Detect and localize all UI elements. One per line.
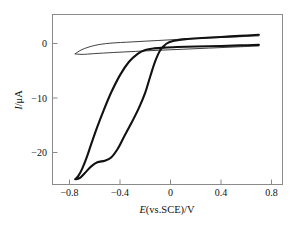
x-tick-label-3: 0.4	[215, 187, 228, 198]
y-axis-title-rest: /μA	[13, 90, 24, 107]
y-axis-title: I/μA	[13, 90, 24, 111]
y-axis-tick-labels: 0 −10 −20	[31, 38, 47, 158]
x-axis-title: E(vs.SCE)/V	[138, 204, 195, 216]
x-tick-label-1: −0.4	[111, 187, 129, 198]
y-tick-label-0: 0	[42, 38, 47, 49]
x-tick-label-4: 0.8	[265, 187, 278, 198]
x-axis-tick-labels: −0.8 −0.4 0 0.4 0.8	[60, 187, 277, 198]
y-tick-label-1: −10	[31, 93, 47, 104]
cyclic-voltammogram-figure: −0.8 −0.4 0 0.4 0.8 0 −10 −20 E(vs.SCE)/…	[0, 0, 298, 225]
x-axis-title-rest: (vs.SCE)/V	[146, 204, 195, 216]
sample-cv-curve	[75, 35, 259, 179]
y-tick-label-2: −20	[31, 147, 47, 158]
chart-canvas: −0.8 −0.4 0 0.4 0.8 0 −10 −20 E(vs.SCE)/…	[0, 0, 298, 225]
x-tick-label-2: 0	[168, 187, 173, 198]
x-axis-ticks	[70, 180, 272, 185]
x-tick-label-0: −0.8	[60, 187, 78, 198]
y-axis-ticks	[53, 44, 58, 153]
data-curves	[75, 35, 259, 179]
